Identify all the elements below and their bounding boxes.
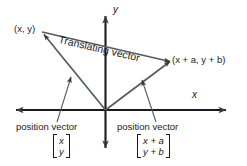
matrix-bracket-right — [66, 134, 70, 158]
matrix-row-1: x — [59, 135, 64, 146]
matrix-row-1: x + a — [143, 135, 164, 146]
position-vector-right-matrix: x + a y + b — [137, 134, 170, 158]
matrix-row-2: y + b — [143, 146, 164, 157]
start-point-label: (x, y) — [14, 24, 35, 34]
x-axis-label: x — [192, 90, 197, 100]
position-vector-left-matrix: x y — [53, 134, 70, 158]
position-vector-left-label: position vector — [16, 122, 77, 132]
translating-vector-figure: y x (x, y) (x + a, y + b) Translating ve… — [0, 0, 247, 166]
matrix-rows: x y — [57, 134, 66, 158]
leader-line-left — [57, 77, 71, 122]
diagram-canvas — [0, 0, 247, 166]
matrix-bracket-right — [166, 134, 170, 158]
position-vector-right-label: position vector — [117, 122, 178, 132]
matrix-row-2: y — [59, 146, 64, 157]
matrix-rows: x + a y + b — [141, 134, 166, 158]
position-vector-right-arrow — [106, 62, 171, 111]
end-point-label: (x + a, y + b) — [172, 55, 225, 65]
leader-line-right — [142, 80, 156, 122]
y-axis-label: y — [113, 5, 118, 15]
